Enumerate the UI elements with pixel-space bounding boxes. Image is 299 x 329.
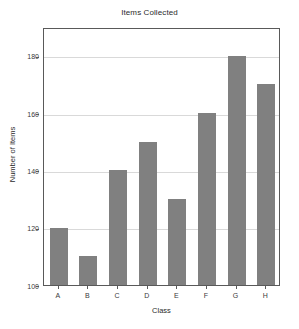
- y-tick-mark: [36, 171, 39, 172]
- x-tick-mark: [117, 286, 118, 289]
- chart-figure: Items Collected 100120140160180 ABCDEFGH…: [0, 0, 299, 329]
- plot-area: [43, 28, 280, 286]
- x-tick-label: D: [137, 292, 157, 300]
- x-tick-label: H: [255, 292, 275, 300]
- y-tick-label: 100: [5, 283, 39, 290]
- bar-g: [228, 56, 246, 285]
- x-tick-label: F: [196, 292, 216, 300]
- x-tick-mark: [58, 286, 59, 289]
- x-tick-label: G: [226, 292, 246, 300]
- y-tick-mark: [36, 114, 39, 115]
- x-tick-mark: [206, 286, 207, 289]
- x-tick-mark: [87, 286, 88, 289]
- bar-a: [50, 228, 68, 285]
- x-tick-label: A: [48, 292, 68, 300]
- x-tick-label: B: [77, 292, 97, 300]
- y-axis-ticks: 100120140160180: [0, 28, 39, 286]
- y-tick-label: 180: [5, 53, 39, 60]
- bar-e: [168, 199, 186, 285]
- x-tick-mark: [176, 286, 177, 289]
- bar-h: [257, 84, 275, 285]
- bars-layer: [44, 29, 279, 285]
- x-axis-label: Class: [43, 306, 280, 315]
- y-tick-mark: [36, 286, 39, 287]
- x-tick-mark: [147, 286, 148, 289]
- x-tick-label: C: [107, 292, 127, 300]
- y-tick-mark: [36, 229, 39, 230]
- y-axis-label: Number of Items: [8, 95, 17, 215]
- x-tick-label: E: [166, 292, 186, 300]
- y-tick-label: 120: [5, 225, 39, 232]
- x-tick-mark: [265, 286, 266, 289]
- y-tick-mark: [36, 57, 39, 58]
- bar-c: [109, 170, 127, 285]
- x-tick-mark: [236, 286, 237, 289]
- x-axis-ticks: ABCDEFGH: [43, 286, 280, 302]
- bar-b: [79, 256, 97, 285]
- bar-f: [198, 113, 216, 285]
- page-title: Items Collected: [0, 8, 299, 18]
- bar-d: [139, 142, 157, 285]
